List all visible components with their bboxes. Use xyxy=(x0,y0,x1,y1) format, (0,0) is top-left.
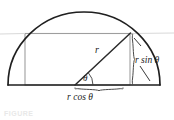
label-angle-theta: θ xyxy=(83,74,87,83)
figure-container: r θ r sin θ r cos θ FIGURE xyxy=(0,0,174,120)
horizontal-brace-rcos xyxy=(75,88,123,91)
label-r-sin-theta: r sin θ xyxy=(135,56,159,66)
inscribed-rectangle xyxy=(25,34,130,86)
figure-caption: FIGURE xyxy=(4,110,33,117)
rsin-leader-line xyxy=(140,66,150,81)
rsin-leader-tick xyxy=(134,38,141,46)
rectangle-top-extension-line-left xyxy=(0,34,25,35)
label-r-cos-theta: r cos θ xyxy=(67,93,93,103)
label-radius: r xyxy=(95,45,99,55)
angle-arc-theta xyxy=(88,73,93,85)
